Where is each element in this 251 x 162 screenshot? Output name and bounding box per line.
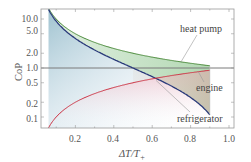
x-axis-title-subscript: + — [140, 153, 145, 162]
heat-pump-label: heat pump — [180, 23, 222, 34]
x-axis-title: ΔT/T+ — [118, 148, 145, 162]
x-tick-label: 0.2 — [69, 134, 81, 144]
y-tick-label: 0.5 — [26, 78, 38, 88]
y-tick-label: 5.0 — [26, 26, 38, 36]
heat-pump-leader — [181, 35, 197, 62]
y-tick-label: 1.0 — [26, 63, 38, 73]
x-tick-label: 0.4 — [107, 134, 119, 144]
x-axis-title-main: ΔT/T — [118, 148, 141, 159]
y-tick-label: 10.0 — [21, 14, 38, 24]
y-tick-label: 2.0 — [26, 48, 38, 58]
cop-chart: 10.0 5.0 2.0 1.0 0.5 0.2 0.1 CoP 0.2 0.4… — [0, 0, 251, 162]
x-tick-label: 0.8 — [184, 134, 196, 144]
x-tick-label: 0.6 — [146, 134, 158, 144]
y-tick-label: 0.2 — [26, 99, 38, 109]
engine-label: engine — [196, 82, 223, 93]
y-tick-label: 0.1 — [26, 114, 38, 124]
y-axis-title: CoP — [13, 63, 24, 81]
x-tick-label: 1.0 — [223, 134, 235, 144]
y-axis: 10.0 5.0 2.0 1.0 0.5 0.2 0.1 CoP — [13, 14, 38, 124]
x-axis: 0.2 0.4 0.6 0.8 1.0 ΔT/T+ — [69, 134, 235, 162]
refrigerator-label: refrigerator — [177, 113, 223, 124]
